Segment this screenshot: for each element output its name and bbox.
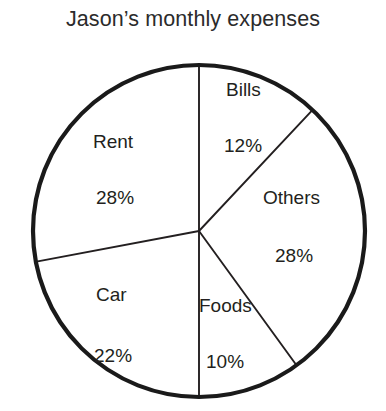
slice-value-bills: 12% [224,136,262,155]
slice-value-rent: 28% [96,188,134,207]
slice-value-others: 28% [275,246,313,265]
slice-label-car: Car [96,285,127,304]
slice-label-rent: Rent [93,132,133,151]
pie-slice-rent[interactable] [32,65,199,262]
pie-chart-graphic [0,0,386,411]
slice-value-car: 22% [94,346,132,365]
slice-label-bills: Bills [226,80,261,99]
pie-chart-figure: Jason’s monthly expenses Bills 12% [0,0,386,411]
slice-label-foods: Foods [199,296,252,315]
slice-value-foods: 10% [206,352,244,371]
slice-label-others: Others [263,188,320,207]
